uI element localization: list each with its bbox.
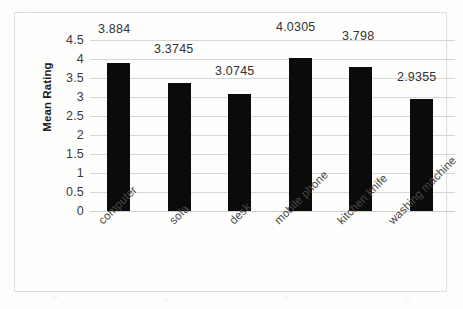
gridline-2-5: [90, 116, 455, 117]
gridline-4-5: [90, 40, 455, 41]
bar-value-label-kitchen-knife: 3.798: [342, 30, 374, 43]
y-tick-label: 1.5: [32, 148, 84, 161]
y-tick-label: 0: [32, 205, 84, 218]
plot-area: 3.884 3.3745 3.0745 4.0305 3.798 2.9355: [90, 40, 455, 211]
chart-frame: Mean Rating 4.5 4 3.5 3 2.5 2 1.5 1 0.5 …: [14, 12, 447, 292]
x-axis-tick-labels: computer sofa desk mobile phone kitchen …: [90, 212, 455, 304]
gridline-0-5: [90, 192, 455, 193]
gridline-1-5: [90, 154, 455, 155]
y-axis-tick-labels: 4.5 4 3.5 3 2.5 2 1.5 1 0.5 0: [26, 40, 84, 211]
gridline-1: [90, 173, 455, 174]
y-tick-label: 3.5: [32, 72, 84, 85]
bar-value-label-computer: 3.884: [98, 23, 130, 36]
bar-value-label-mobile-phone: 4.0305: [276, 21, 315, 34]
bar-sofa[interactable]: [168, 83, 191, 211]
bar-value-label-desk: 3.0745: [215, 65, 254, 78]
y-tick-label: 1: [32, 167, 84, 180]
y-tick-label: 4: [32, 53, 84, 66]
y-tick-label: 2.5: [32, 110, 84, 123]
gridline-4: [90, 59, 455, 60]
y-tick-label: 2: [32, 129, 84, 142]
gridline-3: [90, 97, 455, 98]
y-tick-label: 3: [32, 91, 84, 104]
scanned-page-canvas: Mean Rating 4.5 4 3.5 3 2.5 2 1.5 1 0.5 …: [0, 0, 463, 309]
y-tick-label: 4.5: [32, 34, 84, 47]
bar-desk[interactable]: [228, 94, 251, 211]
y-tick-label: 0.5: [32, 186, 84, 199]
bar-value-label-washing-machine: 2.9355: [397, 71, 436, 84]
gridline-2: [90, 135, 455, 136]
bar-value-label-sofa: 3.3745: [154, 43, 193, 56]
